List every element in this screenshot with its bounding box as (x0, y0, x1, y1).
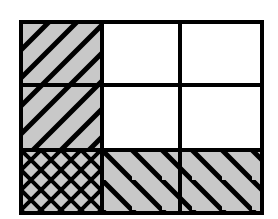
grid-cell-r2c3[interactable] (180, 85, 262, 150)
grid-cell-r1c2[interactable] (102, 22, 180, 85)
grid-cell-r3c1[interactable] (21, 150, 102, 213)
hatched-grid-diagram (0, 0, 278, 219)
grid-cell-r3c2[interactable] (102, 150, 180, 213)
grid-cell-r2c2[interactable] (102, 85, 180, 150)
grid-cell-r1c1[interactable] (21, 22, 102, 85)
grid-cell-r1c3[interactable] (180, 22, 262, 85)
figure-canvas (0, 0, 278, 219)
grid-cell-r2c1[interactable] (21, 85, 102, 150)
grid-cell-r3c3[interactable] (180, 150, 262, 213)
